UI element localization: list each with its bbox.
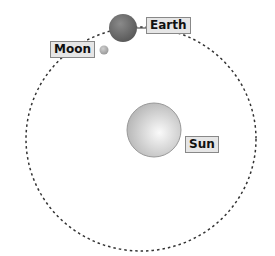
orbit-diagram	[0, 0, 275, 256]
earth	[109, 14, 137, 42]
earth-label: Earth	[146, 17, 191, 34]
moon-label: Moon	[50, 41, 95, 58]
sun-label: Sun	[185, 136, 219, 153]
sun	[127, 103, 181, 157]
moon	[100, 46, 109, 55]
